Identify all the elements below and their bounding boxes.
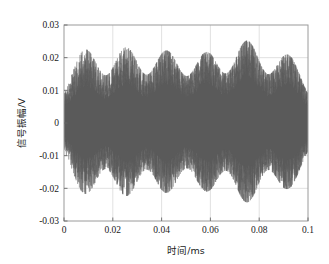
- figure-container: 00.020.040.060.080.1 0.030.020.010-0.01-…: [0, 0, 329, 264]
- x-tick-label: 0: [62, 225, 67, 235]
- y-tick-label: 0: [54, 118, 59, 128]
- x-tick-label: 0.08: [251, 225, 268, 235]
- y-tick-label: 0.03: [42, 20, 59, 30]
- x-tick-label: 0.1: [302, 225, 314, 235]
- x-tick-label: 0.04: [153, 225, 170, 235]
- y-axis-label: 信号振幅/V: [16, 98, 27, 148]
- y-tick-label: -0.02: [39, 184, 59, 194]
- y-tick-label: 0.02: [42, 53, 59, 63]
- y-tick-label: 0.01: [42, 86, 59, 96]
- x-tick-label: 0.02: [104, 225, 121, 235]
- x-axis-label: 时间/ms: [167, 245, 204, 256]
- signal-amplitude-chart: 00.020.040.060.080.1 0.030.020.010-0.01-…: [0, 0, 329, 264]
- y-tick-label: -0.01: [39, 151, 59, 161]
- y-tick-label: -0.03: [39, 216, 59, 226]
- x-tick-label: 0.06: [202, 225, 219, 235]
